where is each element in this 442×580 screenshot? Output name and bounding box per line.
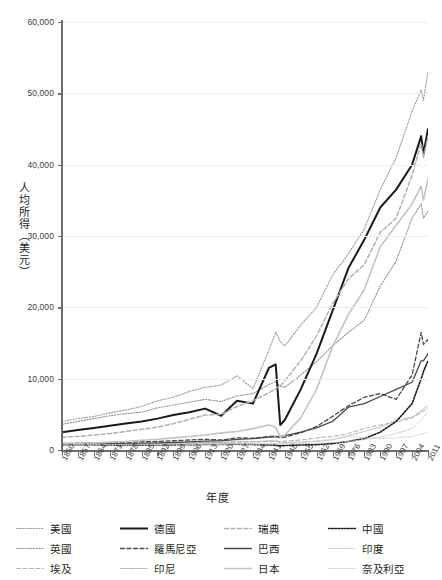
- legend-swatch-icon: [328, 543, 356, 554]
- y-tick-mark: [58, 22, 62, 23]
- legend-label: 羅馬尼亞: [154, 541, 196, 556]
- gridline: [62, 93, 428, 94]
- y-tick-mark: [58, 165, 62, 166]
- y-tick-mark: [58, 93, 62, 94]
- legend-label: 瑞典: [258, 521, 279, 536]
- y-axis-title: 人均所得（美元）: [10, 182, 30, 278]
- legend-swatch-icon: [16, 563, 44, 574]
- plot-area: [62, 22, 428, 450]
- legend-label: 奈及利亞: [362, 561, 404, 576]
- legend-item[interactable]: 英國: [16, 538, 116, 558]
- y-tick-mark: [58, 307, 62, 308]
- series-line: [62, 411, 428, 444]
- series-line: [62, 179, 428, 444]
- gridline: [62, 22, 428, 23]
- gridline: [62, 379, 428, 380]
- legend-label: 德國: [154, 521, 175, 536]
- legend-swatch-icon: [328, 523, 356, 534]
- legend-item[interactable]: 德國: [120, 518, 220, 538]
- legend-label: 印尼: [154, 561, 175, 576]
- y-tick-label: 40,000: [27, 160, 54, 170]
- x-axis-title: 年度: [0, 489, 436, 505]
- legend-swatch-icon: [16, 543, 44, 554]
- legend-item[interactable]: 日本: [224, 558, 324, 578]
- legend-label: 英國: [50, 541, 71, 556]
- legend-item[interactable]: 中國: [328, 518, 428, 538]
- legend-swatch-icon: [120, 543, 148, 554]
- legend-label: 美國: [50, 521, 71, 536]
- y-tick-label: 0: [49, 445, 54, 455]
- series-line: [62, 136, 428, 437]
- legend-item[interactable]: 巴西: [224, 538, 324, 558]
- legend-label: 中國: [362, 521, 383, 536]
- legend-swatch-icon: [224, 523, 252, 534]
- legend-swatch-icon: [224, 543, 252, 554]
- y-tick-label: 50,000: [27, 88, 54, 98]
- y-tick-label: 20,000: [27, 302, 54, 312]
- legend-swatch-icon: [120, 563, 148, 574]
- series-line: [62, 129, 428, 432]
- legend-item[interactable]: 羅馬尼亞: [120, 538, 220, 558]
- gridline: [62, 236, 428, 237]
- legend-label: 巴西: [258, 541, 279, 556]
- legend-item[interactable]: 瑞典: [224, 518, 324, 538]
- series-line: [62, 72, 428, 422]
- y-tick-label: 10,000: [27, 374, 54, 384]
- y-tick-label: 60,000: [27, 17, 54, 27]
- y-tick-mark: [58, 236, 62, 237]
- legend-item[interactable]: 印尼: [120, 558, 220, 578]
- legend-label: 埃及: [50, 561, 71, 576]
- legend-item[interactable]: 美國: [16, 518, 116, 538]
- legend-swatch-icon: [120, 523, 148, 534]
- chart-legend: 美國德國瑞典中國英國羅馬尼亞巴西印度埃及印尼日本奈及利亞: [16, 518, 428, 578]
- gridline: [62, 307, 428, 308]
- x-tick-label: 2011: [426, 443, 442, 462]
- legend-label: 日本: [258, 561, 279, 576]
- legend-swatch-icon: [328, 563, 356, 574]
- legend-item[interactable]: 印度: [328, 538, 428, 558]
- legend-swatch-icon: [16, 523, 44, 534]
- legend-label: 印度: [362, 541, 383, 556]
- legend-item[interactable]: 奈及利亞: [328, 558, 428, 578]
- legend-item[interactable]: 埃及: [16, 558, 116, 578]
- y-tick-mark: [58, 379, 62, 380]
- legend-swatch-icon: [224, 563, 252, 574]
- y-tick-label: 30,000: [27, 231, 54, 241]
- gridline: [62, 165, 428, 166]
